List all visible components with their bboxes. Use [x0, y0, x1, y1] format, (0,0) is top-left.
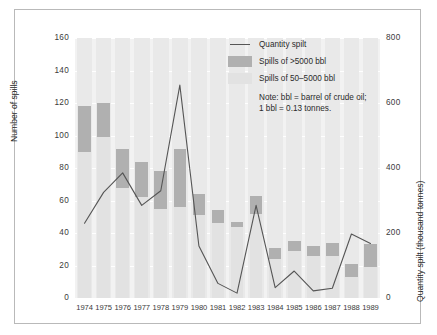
x-tick-label: 1986	[304, 303, 323, 312]
chart-frame: Number of spills Quantity spilt (thousan…	[14, 9, 421, 324]
light-swatch-icon	[228, 73, 252, 84]
y-tick-label-right: 0	[386, 293, 420, 302]
x-tick-label: 1978	[151, 303, 170, 312]
y-tick-label-left: 80	[35, 163, 69, 172]
y-tick-label-right: 600	[386, 98, 420, 107]
legend-label: Spills of 50–5000 bbl	[259, 74, 335, 83]
quantity-spilt-line	[85, 85, 371, 293]
x-tick-label: 1975	[94, 303, 113, 312]
line-swatch-icon	[228, 39, 252, 50]
x-tick-label: 1983	[247, 303, 266, 312]
x-tick-label: 1987	[323, 303, 342, 312]
gridline	[75, 298, 380, 299]
chart-legend: Quantity spilt Spills of >5000 bbl Spill…	[228, 37, 378, 114]
y-tick-label-right: 400	[386, 163, 420, 172]
x-tick-label: 1979	[170, 303, 189, 312]
legend-item-spills-50-5000: Spills of 50–5000 bbl	[228, 71, 378, 86]
y-axis-label-right: Quantity spilt (thousand tonnes)	[415, 181, 425, 302]
x-tick-label: 1977	[132, 303, 151, 312]
x-tick-label: 1976	[113, 303, 132, 312]
y-tick-label-left: 60	[35, 196, 69, 205]
x-tick-label: 1982	[228, 303, 247, 312]
y-tick-label-right: 800	[386, 33, 420, 42]
legend-item-quantity-spilt: Quantity spilt	[228, 37, 378, 52]
chart-note: Note: bbl = barrel of crude oil; 1 bbl =…	[228, 93, 371, 114]
legend-label: Spills of >5000 bbl	[259, 57, 326, 66]
x-tick-label: 1981	[208, 303, 227, 312]
y-axis-label-left: Number of spills	[9, 80, 19, 142]
y-tick-label-left: 120	[35, 98, 69, 107]
y-tick-label-right: 200	[386, 228, 420, 237]
x-tick-label: 1984	[266, 303, 285, 312]
y-tick-label-left: 20	[35, 261, 69, 270]
y-tick-label-left: 100	[35, 131, 69, 140]
x-tick-label: 1989	[361, 303, 380, 312]
legend-item-spills-over-5000: Spills of >5000 bbl	[228, 54, 378, 69]
x-tick-label: 1985	[285, 303, 304, 312]
x-tick-label: 1980	[189, 303, 208, 312]
y-tick-label-left: 160	[35, 33, 69, 42]
dark-swatch-icon	[228, 56, 252, 67]
x-tick-label: 1988	[342, 303, 361, 312]
y-tick-label-left: 0	[35, 293, 69, 302]
y-tick-label-left: 40	[35, 228, 69, 237]
x-tick-label: 1974	[75, 303, 94, 312]
legend-label: Quantity spilt	[259, 40, 306, 49]
y-tick-label-left: 140	[35, 66, 69, 75]
